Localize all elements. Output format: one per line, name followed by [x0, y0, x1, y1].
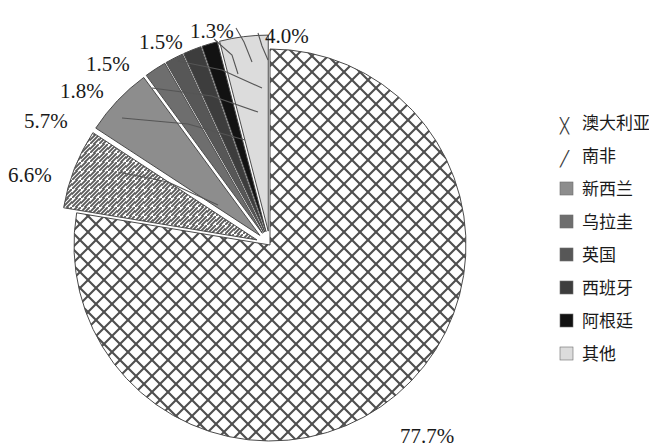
- legend-label-new-zealand: 新西兰: [582, 179, 633, 199]
- legend-item-australia[interactable]: ╳澳大利亚: [559, 113, 649, 135]
- legend-label-spain: 西班牙: [582, 278, 633, 298]
- legend-item-spain[interactable]: 西班牙: [560, 278, 633, 298]
- slice-percent-label-argentina: 1.3%: [190, 19, 234, 43]
- pie-chart-canvas: 77.7%6.6%5.7%1.8%1.5%1.5%1.3%4.0% ╳澳大利亚╱…: [0, 0, 649, 443]
- legend-label-south-africa: 南非: [582, 146, 616, 166]
- legend-item-other[interactable]: 其他: [560, 344, 616, 364]
- legend-swatch-uruguay-icon: [560, 215, 573, 228]
- slice-percent-label-australia: 77.7%: [400, 424, 454, 443]
- legend-swatch-new-zealand-icon: [560, 182, 573, 195]
- legend-item-argentina[interactable]: 阿根廷: [560, 311, 633, 331]
- legend-label-australia: 澳大利亚: [582, 113, 649, 133]
- slice-percent-label-other: 4.0%: [265, 24, 309, 48]
- slice-percent-label-new-zealand: 5.7%: [24, 109, 68, 133]
- legend-swatch-spain-icon: [560, 281, 573, 294]
- slice-percent-label-uruguay: 1.8%: [60, 79, 104, 103]
- legend-label-uruguay: 乌拉圭: [582, 212, 633, 232]
- legend-item-new-zealand[interactable]: 新西兰: [560, 179, 633, 199]
- legend-item-south-africa[interactable]: ╱南非: [559, 146, 616, 168]
- legend-swatch-argentina-icon: [560, 314, 573, 327]
- legend-item-uruguay[interactable]: 乌拉圭: [560, 212, 633, 232]
- legend-label-other: 其他: [582, 344, 616, 364]
- pie-chart-figure: 77.7%6.6%5.7%1.8%1.5%1.5%1.3%4.0% ╳澳大利亚╱…: [0, 0, 649, 443]
- slice-percent-label-united-kingdom: 1.5%: [86, 52, 130, 76]
- legend-label-argentina: 阿根廷: [582, 311, 633, 331]
- legend-swatch-united-kingdom-icon: [560, 248, 573, 261]
- slice-percent-label-south-africa: 6.6%: [8, 163, 52, 187]
- legend-swatch-other-icon: [560, 347, 573, 360]
- chart-legend: ╳澳大利亚╱南非新西兰乌拉圭英国西班牙阿根廷其他: [559, 113, 649, 364]
- legend-item-united-kingdom[interactable]: 英国: [560, 245, 616, 265]
- pie-slices-group: [64, 35, 466, 441]
- legend-swatch-diagonal-icon: ╱: [559, 150, 570, 168]
- slice-percent-label-spain: 1.5%: [139, 30, 183, 54]
- legend-label-united-kingdom: 英国: [582, 245, 616, 265]
- legend-swatch-crosshatch-icon: ╳: [559, 117, 570, 135]
